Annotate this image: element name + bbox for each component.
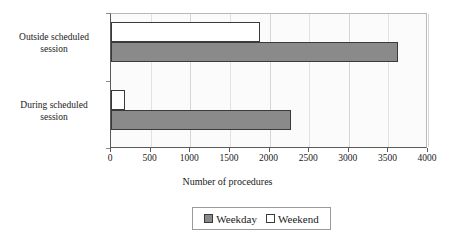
category-label-line-1: Outside scheduled	[2, 31, 106, 43]
category-label-outside-scheduled-session: Outside scheduled session	[2, 31, 106, 55]
x-tick-mark-2000	[269, 148, 270, 152]
x-tick-label-2000: 2000	[249, 153, 289, 163]
x-tick-mark-2500	[308, 148, 309, 152]
category-label-during-scheduled-session: During scheduled session	[2, 99, 106, 123]
category-label-line-2: session	[2, 111, 106, 123]
legend-swatch-weekend-icon	[266, 214, 275, 223]
x-tick-label-1000: 1000	[169, 153, 209, 163]
x-tick-label-2500: 2500	[288, 153, 328, 163]
x-tick-label-0: 0	[90, 153, 130, 163]
x-tick-mark-0	[110, 148, 111, 152]
y-tick-mark-1	[106, 81, 110, 82]
bar-weekend-outside-scheduled-session	[111, 22, 260, 42]
x-tick-mark-3500	[387, 148, 388, 152]
bar-weekday-during-scheduled-session	[111, 110, 291, 130]
bar-weekend-during-scheduled-session	[111, 90, 125, 110]
x-tick-mark-500	[150, 148, 151, 152]
y-tick-mark-0	[106, 13, 110, 14]
legend-entry-weekend: Weekend	[266, 213, 319, 225]
category-label-line-1: During scheduled	[2, 99, 106, 111]
legend-swatch-weekday-icon	[204, 214, 213, 223]
legend-entry-weekday: Weekday	[204, 213, 257, 225]
category-label-line-2: session	[2, 43, 106, 55]
x-axis-title: Number of procedures	[0, 176, 455, 187]
legend-label-weekend: Weekend	[278, 213, 319, 225]
x-tick-mark-1500	[229, 148, 230, 152]
bar-chart: Outside scheduled session During schedul…	[0, 0, 455, 241]
chart-legend: Weekday Weekend	[192, 207, 331, 230]
x-tick-label-4000: 4000	[407, 153, 447, 163]
gridline-4000	[428, 14, 429, 147]
gridline-3000	[349, 14, 350, 147]
gridline-3500	[388, 14, 389, 147]
x-tick-label-3000: 3000	[328, 153, 368, 163]
x-tick-mark-1000	[189, 148, 190, 152]
x-tick-label-3500: 3500	[367, 153, 407, 163]
gridline-2500	[309, 14, 310, 147]
plot-area	[110, 13, 427, 148]
bar-weekday-outside-scheduled-session	[111, 42, 398, 62]
x-tick-label-1500: 1500	[209, 153, 249, 163]
x-tick-mark-3000	[348, 148, 349, 152]
x-tick-mark-4000	[427, 148, 428, 152]
legend-label-weekday: Weekday	[216, 213, 257, 225]
x-tick-label-500: 500	[130, 153, 170, 163]
